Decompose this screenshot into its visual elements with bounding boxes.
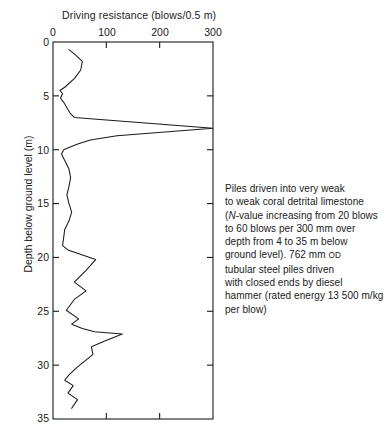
chart-title: Driving resistance (blows/0.5 m) [62,9,232,21]
annotation-line-2: to weak coral detrital limestone [225,196,364,207]
y-tick-label-15: 15 [27,197,49,209]
y-tick-label-30: 30 [27,359,49,371]
x-tick-label-200: 200 [140,26,180,38]
annotation-line-3: (N-value increasing from 20 blows [225,210,378,221]
y-tick-label-5: 5 [27,90,49,102]
driving-resistance-figure: Driving resistance (blows/0.5 m) Depth b… [0,0,392,440]
y-tick-label-35: 35 [27,412,49,424]
y-tick-label-0: 0 [27,36,49,48]
annotation-line-7: tubular steel piles driven [225,264,334,275]
y-tick-label-25: 25 [27,305,49,317]
annotation-line-4: to 60 blows per 300 mm over [225,223,355,234]
annotation-line-1: Piles driven into very weak [225,183,345,194]
annotation-line-5: depth from 4 to 35 m below [225,236,347,247]
annotation-line-10: per blow) [225,304,267,315]
data-line-driving-resistance [60,50,213,409]
annotation-line-6: ground level). 762 mm OD [225,249,341,260]
y-tick-label-20: 20 [27,251,49,263]
y-tick-label-10: 10 [27,144,49,156]
annotation-text: Piles driven into very weak to weak cora… [225,182,387,316]
annotation-line-9: hammer (rated energy 13 500 m/kg [225,290,383,301]
axis-frame [53,42,213,419]
axis-ticks [53,42,213,419]
annotation-line-8: with closed ends by diesel [225,277,342,288]
x-tick-label-300: 300 [193,26,233,38]
x-tick-label-100: 100 [87,26,127,38]
